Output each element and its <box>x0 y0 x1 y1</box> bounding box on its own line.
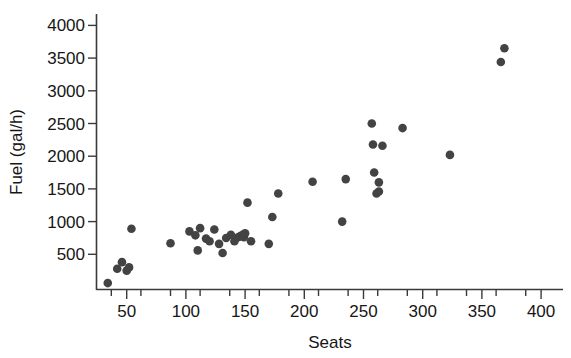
data-point <box>193 246 202 255</box>
x-axis-tick-label: 350 <box>468 302 496 321</box>
y-axis-tick-label: 4000 <box>47 16 85 35</box>
x-axis-tick-label: 150 <box>231 302 259 321</box>
y-axis-tick-label: 500 <box>57 245 85 264</box>
y-axis-tick-label: 3000 <box>47 82 85 101</box>
data-point <box>196 224 205 233</box>
x-axis-tick-label: 200 <box>290 302 318 321</box>
data-point <box>205 237 214 246</box>
data-point <box>497 58 506 67</box>
y-axis-tick-label: 2000 <box>47 147 85 166</box>
scatter-plot-figure: 5001000150020002500300035004000 50100150… <box>0 0 571 358</box>
plot-canvas: 5001000150020002500300035004000 50100150… <box>0 0 571 358</box>
data-point <box>375 187 384 196</box>
data-point <box>369 140 378 149</box>
x-axis-tick-mark-group <box>111 290 541 300</box>
x-axis-tick-label: 400 <box>527 302 555 321</box>
y-axis-tick-label: 2500 <box>47 115 85 134</box>
data-point <box>127 224 136 233</box>
data-point <box>375 178 384 187</box>
x-axis-tick-label: 100 <box>172 302 200 321</box>
data-point <box>215 240 224 249</box>
data-point <box>370 168 379 177</box>
data-point <box>191 231 200 240</box>
data-point <box>243 198 252 207</box>
data-point <box>241 229 250 238</box>
x-axis-tick-label: 300 <box>409 302 437 321</box>
data-point <box>166 239 175 248</box>
y-axis-tick-label-group: 5001000150020002500300035004000 <box>47 16 85 264</box>
y-axis-title: Fuel (gal/h) <box>7 109 26 195</box>
x-axis-tick-label: 50 <box>117 302 136 321</box>
data-point <box>210 225 219 234</box>
data-point <box>103 279 112 288</box>
data-point <box>367 119 376 128</box>
data-point <box>268 213 277 222</box>
y-axis-tick-mark-group <box>88 25 97 254</box>
data-point <box>125 263 134 272</box>
x-axis-tick-label-group: 50100150200250300350400 <box>117 302 555 321</box>
y-axis-tick-label: 1000 <box>47 213 85 232</box>
data-point <box>118 258 127 267</box>
y-axis-tick-label: 1500 <box>47 180 85 199</box>
y-axis-tick-label: 3500 <box>47 49 85 68</box>
data-point <box>398 124 407 133</box>
data-point <box>446 151 455 160</box>
x-axis-title: Seats <box>308 333 351 352</box>
data-point <box>338 217 347 226</box>
data-point <box>500 44 509 53</box>
data-point <box>264 240 273 249</box>
data-point <box>218 249 227 258</box>
data-point-group <box>103 44 508 287</box>
x-axis-tick-label: 250 <box>349 302 377 321</box>
data-point <box>308 177 317 186</box>
data-point <box>341 175 350 184</box>
data-point <box>247 237 256 246</box>
data-point <box>274 189 283 198</box>
data-point <box>378 141 387 150</box>
